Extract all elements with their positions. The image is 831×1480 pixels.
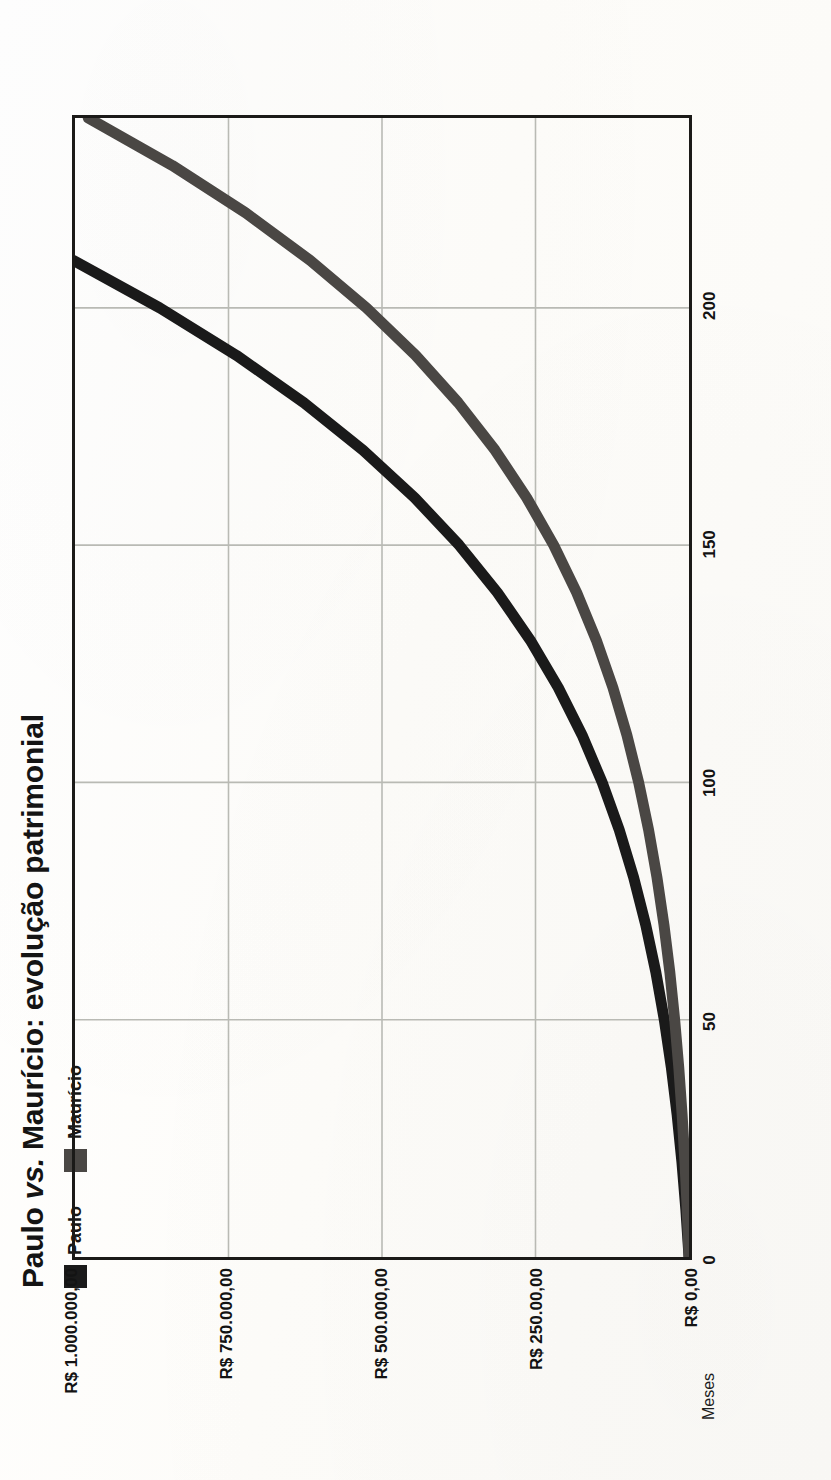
series-line-maurcio — [88, 118, 689, 1257]
category-axis-tick-label: 150 — [700, 530, 720, 558]
value-axis-tick-label: R$ 1.000.000,00 — [62, 1268, 82, 1394]
category-axis-labels: 050100150200 — [700, 115, 740, 1260]
value-axis-tick-label: R$ 750.000,00 — [217, 1268, 237, 1380]
value-axis-tick-label: R$ 0,00 — [682, 1268, 702, 1328]
category-axis-tick-label: 50 — [700, 1012, 720, 1031]
value-axis-tick-label: R$ 500.000,00 — [372, 1268, 392, 1380]
category-axis-title: Meses — [700, 1373, 718, 1420]
category-axis-tick-label: 100 — [700, 769, 720, 797]
category-axis-tick-label: 200 — [700, 292, 720, 320]
rotated-figure-canvas: Paulo vs. Maurício: evolução patrimonial… — [0, 0, 831, 1480]
plot-area — [72, 115, 692, 1260]
value-axis-tick-label: R$ 250.00,00 — [527, 1268, 547, 1370]
plot-wrapper: R$ 1.000.000,00R$ 750.000,00R$ 500.000,0… — [0, 0, 831, 1480]
category-axis-tick-label: 0 — [700, 1255, 720, 1264]
plot-canvas — [75, 118, 689, 1257]
value-axis-labels: R$ 1.000.000,00R$ 750.000,00R$ 500.000,0… — [72, 1268, 692, 1480]
